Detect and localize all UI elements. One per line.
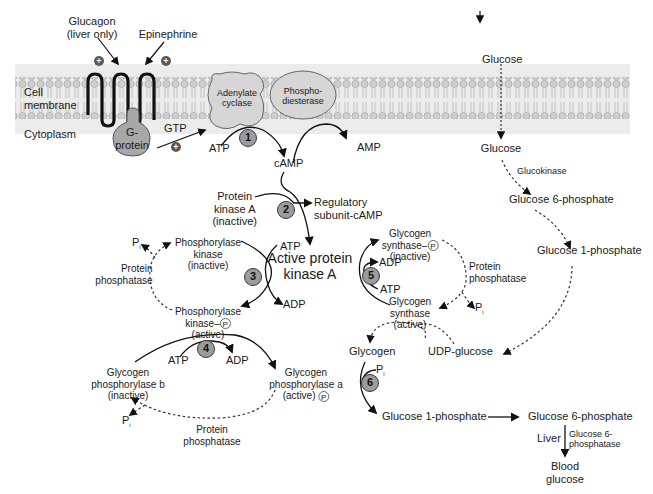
plus-icon: +: [161, 56, 171, 66]
pp1-line1: Protein: [95, 263, 152, 275]
adenylate-line1: Adenylate: [217, 88, 257, 98]
glucagon-line2: (liver only): [67, 28, 118, 41]
active-pka-line2: kinase A: [268, 266, 353, 282]
plus-icon: +: [94, 56, 104, 66]
blood-line1: Blood: [546, 460, 584, 473]
adenylate-cyclase-label: Adenylate cyclase: [217, 88, 257, 109]
g-protein-line1: G-: [115, 126, 149, 139]
epinephrine-label: Epinephrine: [139, 28, 198, 41]
g6pase-line1: Glucose 6-: [569, 429, 621, 439]
protein-phosphatase-label-3: Protein phosphatase: [469, 261, 526, 284]
gs-inactive-line1: Glycogen: [382, 228, 439, 240]
cell-label: Cell: [24, 86, 77, 99]
regulatory-subunit-label: Regulatory subunit-cAMP: [314, 196, 382, 221]
phosphodiesterase-label: Phospho- diesterase: [282, 86, 324, 107]
step-5-icon: 5: [362, 267, 380, 285]
protein-phosphatase-label-1: Protein phosphatase: [95, 263, 152, 286]
phk-inactive-line3: (inactive): [175, 260, 241, 272]
adp-label-5: ADP: [379, 256, 402, 269]
plus-icon: +: [171, 142, 181, 152]
g-protein-line2: protein: [115, 139, 149, 152]
pka-inactive-label: Protein kinase A (inactive): [212, 190, 257, 228]
step-4-icon: 4: [197, 340, 215, 358]
pka-line2: kinase A: [212, 203, 257, 216]
pi-label-4: Pi: [122, 414, 131, 429]
pp2-line2: phosphatase: [183, 436, 240, 448]
glucose-inside-label: Glucose: [481, 142, 521, 155]
phk-active-line1: Phosphorylase: [175, 306, 241, 318]
glucagon-label: Glucagon (liver only): [67, 15, 118, 40]
udp-glucose-label: UDP-glucose: [428, 345, 493, 358]
blood-glucose-label: Blood glucose: [546, 460, 584, 485]
gs-inactive-line2: synthase–P: [382, 240, 439, 252]
phospho-line1: Phospho-: [282, 86, 324, 96]
adp-label-4: ADP: [226, 354, 249, 367]
phosphate-circle-icon: P: [220, 318, 231, 329]
regulatory-line1: Regulatory: [314, 196, 382, 209]
pi-sub: i: [129, 422, 130, 428]
glucokinase-label: Glucokinase: [517, 166, 567, 176]
pp3-line1: Protein: [469, 261, 526, 273]
glucose-6-phosphatase-label: Glucose 6- phosphatase: [569, 429, 621, 450]
pka-line3: (inactive): [212, 215, 257, 228]
glycogen-phosphorylase-a-label: Glycogen phosphorylase a (active) P: [269, 367, 342, 402]
phosphate-circle-icon: P: [318, 391, 329, 402]
amp-label: AMP: [357, 141, 381, 154]
pi-sub: i: [383, 371, 384, 377]
pp1-line2: phosphatase: [95, 275, 152, 287]
g6pase-line2: phosphatase: [569, 439, 621, 449]
gpb-line2: phosphorylase b: [91, 379, 164, 391]
gs-active-line1: Glycogen: [389, 296, 431, 308]
gpa-active-text: (active): [283, 390, 316, 401]
step-2-icon: 2: [277, 201, 295, 219]
protein-phosphatase-label-2: Protein phosphatase: [183, 424, 240, 447]
step-1-icon: 1: [239, 129, 257, 147]
step-6-icon: 6: [361, 374, 379, 392]
step-3-icon: 3: [244, 268, 262, 286]
atp-label-4: ATP: [168, 354, 189, 367]
pp3-line2: phosphatase: [469, 273, 526, 285]
pka-line1: Protein: [212, 190, 257, 203]
atp-label-3: ATP: [280, 240, 301, 253]
membrane-label: membrane: [24, 99, 77, 112]
phosphate-circle-icon: P: [427, 240, 438, 251]
glycogen-phosphorylase-b-label: Glycogen phosphorylase b (inactive): [91, 367, 164, 402]
glucose-1-phosphate-top-label: Glucose 1-phosphate: [537, 244, 642, 257]
g-protein-label: G- protein: [115, 126, 149, 151]
pi-label-5: Pi: [475, 301, 484, 316]
gpa-line1: Glycogen: [269, 367, 342, 379]
glycogen-label: Glycogen: [349, 345, 395, 358]
liver-label: Liver: [537, 432, 561, 445]
phk-active-line3: (active): [175, 329, 241, 341]
pi-sub: i: [482, 309, 483, 315]
pi-label-3: Pi: [132, 236, 141, 251]
gpa-line2: phosphorylase a: [269, 379, 342, 391]
gtp-label: GTP: [164, 122, 187, 135]
phosphorylase-kinase-active-label: Phosphorylase kinase–P (active): [175, 306, 241, 341]
glucose-6-phosphate-bottom-label: Glucose 6-phosphate: [528, 410, 633, 423]
gpb-line1: Glycogen: [91, 367, 164, 379]
gs-active-line2: synthase: [389, 308, 431, 320]
gpb-line3: (inactive): [91, 390, 164, 402]
cell-membrane-label: Cell membrane: [24, 86, 77, 111]
pi-sub: i: [139, 244, 140, 250]
glucose-1-phosphate-bottom-label: Glucose 1-phosphate: [382, 410, 487, 423]
active-pka-label: Active protein kinase A: [268, 250, 353, 282]
atp-label-5: ATP: [380, 283, 401, 296]
glucagon-line1: Glucagon: [67, 15, 118, 28]
atp-label-1: ATP: [209, 142, 230, 155]
phk-active-text: kinase–: [185, 318, 219, 329]
diesterase-line2: diesterase: [282, 96, 324, 106]
phk-active-line2: kinase–P: [175, 318, 241, 330]
phosphorylase-kinase-inactive-label: Phosphorylase kinase (inactive): [175, 237, 241, 272]
glycogen-synthase-active-label: Glycogen synthase (active): [389, 296, 431, 331]
glucose-6-phosphate-top-label: Glucose 6-phosphate: [509, 193, 614, 206]
phk-inactive-line2: kinase: [175, 249, 241, 261]
phk-inactive-line1: Phosphorylase: [175, 237, 241, 249]
cytoplasm-label: Cytoplasm: [24, 128, 76, 141]
gpa-line3: (active) P: [269, 390, 342, 402]
pi-label-6: Pi: [376, 363, 385, 378]
gs-active-line3: (active): [389, 319, 431, 331]
gs-inactive-text: synthase–: [382, 240, 428, 251]
glycogen-regulation-diagram: Cell membrane Cytoplasm Glucagon (liver …: [0, 0, 653, 494]
